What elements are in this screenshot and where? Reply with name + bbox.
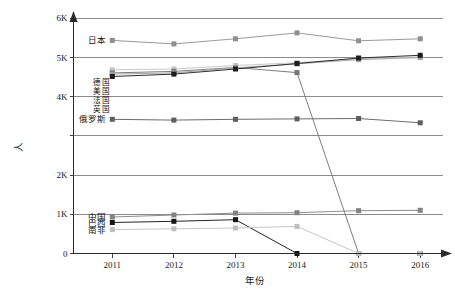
series-巴西 xyxy=(110,217,423,256)
data-point-marker xyxy=(233,226,238,231)
data-point-marker xyxy=(233,36,238,41)
y-tick-label: 0 xyxy=(63,249,68,259)
data-point-marker xyxy=(356,56,361,61)
data-point-marker xyxy=(295,210,300,215)
data-point-marker xyxy=(356,38,361,43)
data-point-marker xyxy=(171,41,176,46)
series-label-法国-suffix: 国 xyxy=(102,96,110,105)
series-line xyxy=(112,226,420,253)
y-axis-arrow-icon xyxy=(70,11,78,22)
series-中国 xyxy=(110,208,423,220)
data-point-marker xyxy=(171,118,176,123)
series-layer xyxy=(110,30,423,256)
data-point-marker xyxy=(418,120,423,125)
y-axis-ticks-group: 01K2K4K5K6K xyxy=(57,13,74,259)
series-俄罗斯 xyxy=(110,116,423,125)
data-point-marker xyxy=(295,30,300,35)
x-tick-label: 2011 xyxy=(103,260,121,270)
y-tick-label: 1K xyxy=(57,209,69,219)
data-point-marker xyxy=(356,116,361,121)
series-label-美国-suffix: 国 xyxy=(102,87,110,96)
series-line xyxy=(112,220,420,254)
data-point-marker xyxy=(233,117,238,122)
gridlines-group xyxy=(74,18,444,214)
series-label-美国: 美 xyxy=(93,86,101,96)
series-英国 xyxy=(110,53,423,79)
x-axis-ticks-group: 201120122013201420152016 xyxy=(103,254,429,270)
data-point-marker xyxy=(171,219,176,224)
x-tick-label: 2012 xyxy=(165,260,183,270)
axes-group xyxy=(70,11,453,258)
series-南非 xyxy=(110,224,423,256)
line-chart: 01K2K4K5K6K 201120122013201420152016 日本俄… xyxy=(0,0,455,294)
data-point-marker xyxy=(110,220,115,225)
x-axis-title: 年份 xyxy=(245,275,265,286)
data-point-marker xyxy=(295,224,300,229)
y-axis-title: 人 xyxy=(14,142,24,152)
series-labels-layer: 日本俄罗斯中国巴西南非德国美国法国英国 xyxy=(79,35,110,235)
data-point-marker xyxy=(356,208,361,213)
chart-container: 01K2K4K5K6K 201120122013201420152016 日本俄… xyxy=(0,0,455,294)
x-tick-label: 2015 xyxy=(350,260,369,270)
series-line xyxy=(112,210,420,217)
series-label-法国: 法 xyxy=(93,95,101,105)
data-point-marker xyxy=(110,227,115,232)
data-point-marker xyxy=(233,211,238,216)
data-point-marker xyxy=(418,53,423,58)
x-tick-label: 2014 xyxy=(288,260,307,270)
data-point-marker xyxy=(110,215,115,220)
data-point-marker xyxy=(110,38,115,43)
y-tick-label: 5K xyxy=(57,53,69,63)
series-line xyxy=(112,33,420,44)
x-tick-label: 2013 xyxy=(227,260,246,270)
x-axis-arrow-icon xyxy=(441,250,452,258)
y-tick-label: 4K xyxy=(57,92,69,102)
series-label-英国: 英 xyxy=(93,104,101,114)
data-point-marker xyxy=(295,116,300,121)
data-point-marker xyxy=(110,117,115,122)
series-label-俄罗斯: 俄罗斯 xyxy=(79,114,106,124)
data-point-marker xyxy=(295,70,300,75)
data-point-marker xyxy=(171,72,176,77)
series-label-德国: 德 xyxy=(93,77,101,87)
series-日本 xyxy=(110,30,423,46)
series-label-英国-suffix: 国 xyxy=(102,105,110,114)
y-tick-label: 2K xyxy=(57,170,69,180)
series-label-日本: 日本 xyxy=(88,35,106,45)
x-tick-label: 2016 xyxy=(411,260,430,270)
series-line xyxy=(112,68,420,254)
y-tick-label: 6K xyxy=(57,13,69,23)
data-point-marker xyxy=(110,74,115,79)
series-line xyxy=(112,119,420,123)
data-point-marker xyxy=(171,226,176,231)
data-point-marker xyxy=(233,67,238,72)
data-point-marker xyxy=(171,213,176,218)
data-point-marker xyxy=(295,61,300,66)
series-label-南非: 南非 xyxy=(88,225,106,235)
data-point-marker xyxy=(418,208,423,213)
series-label-德国-suffix: 国 xyxy=(102,78,110,87)
data-point-marker xyxy=(418,36,423,41)
data-point-marker xyxy=(233,217,238,222)
